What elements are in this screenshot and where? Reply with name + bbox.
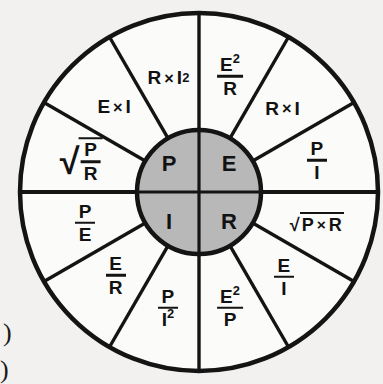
- operand-right: I: [177, 67, 182, 89]
- operand-left: E: [97, 96, 110, 118]
- operand-left: P: [302, 215, 314, 236]
- operand-right: R: [329, 215, 342, 236]
- sector-formula-r-e2-over-p: E2P: [217, 287, 243, 330]
- denominator: I: [281, 278, 286, 299]
- operand-right: I: [126, 96, 131, 118]
- denominator: R: [84, 163, 98, 184]
- sector-formula-i-e-over-r: ER: [106, 254, 126, 297]
- numerator: E: [109, 253, 122, 274]
- numerator: P: [310, 138, 323, 159]
- hub-symbol-current: I: [166, 209, 172, 235]
- times-operator: ×: [110, 98, 126, 117]
- denominator: E: [79, 224, 92, 245]
- times-operator: ×: [279, 99, 295, 118]
- operand-left: R: [265, 98, 279, 120]
- sector-formula-e-r-times-i: R×I: [265, 98, 300, 120]
- hub-symbol-voltage: E: [222, 151, 237, 177]
- sector-formula-p-r-times-i2: R×I2: [148, 67, 190, 89]
- hub-symbol-resistance: R: [221, 209, 237, 235]
- sector-formula-p-e2-over-r: E2R: [217, 55, 243, 98]
- numerator: E: [278, 255, 291, 276]
- sector-formula-i-p-over-e: PE: [75, 201, 95, 244]
- radical-sign: √: [60, 138, 80, 184]
- ohms-law-wheel-diagram: [0, 0, 383, 384]
- denominator: I: [314, 162, 319, 183]
- denominator: R: [109, 277, 123, 298]
- page-artifact-paren-lower: ): [0, 355, 9, 384]
- operand-right: I: [294, 98, 299, 120]
- times-operator: ×: [161, 69, 177, 88]
- sector-formula-p-e-times-i: E×I: [97, 96, 131, 118]
- numerator: P: [84, 140, 97, 161]
- sector-formula-r-p-over-i2: PI2: [158, 287, 178, 330]
- times-operator: ×: [314, 216, 329, 234]
- sector-formula-e-sqrt-p-times-r: √P×R: [290, 212, 344, 236]
- numerator: P: [162, 286, 175, 307]
- hub-symbol-power: P: [162, 151, 177, 177]
- numerator: E: [220, 286, 233, 307]
- denominator: P: [224, 309, 237, 330]
- operand-left: R: [148, 67, 162, 89]
- radical-sign: √: [290, 212, 300, 236]
- page-artifact-paren-upper: ): [3, 318, 12, 348]
- numerator: P: [79, 200, 92, 221]
- sector-formula-e-p-over-i: PI: [307, 139, 327, 182]
- sector-formula-i-sqrt-p-over-r: √PR: [60, 138, 103, 184]
- numerator: E: [220, 54, 233, 75]
- sector-formula-r-e-over-i: EI: [274, 256, 294, 299]
- denominator: R: [223, 77, 237, 98]
